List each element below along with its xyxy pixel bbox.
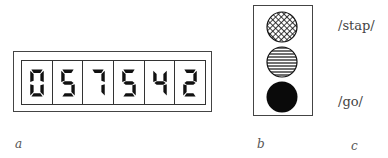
- seven-segment-digit-icon: [28, 68, 46, 98]
- seven-segment-digit-icon: [59, 68, 77, 98]
- caption-b: b: [257, 137, 265, 151]
- seven-segment-digit-icon: [120, 68, 138, 98]
- caption-c: c: [351, 139, 358, 153]
- light-middle-striped-icon: [267, 47, 297, 77]
- label-go: /go/: [338, 94, 363, 109]
- light-bottom-solid-icon: [267, 82, 298, 113]
- seven-segment-digit-icon: [181, 68, 199, 98]
- light-top-crosshatch-icon: [267, 12, 297, 42]
- digit-cell: [114, 61, 145, 104]
- caption-a: a: [15, 137, 22, 151]
- traffic-light: [253, 5, 313, 116]
- digit-cell: [145, 61, 176, 104]
- digit-cell: [22, 61, 53, 104]
- digit-cell: [53, 61, 84, 104]
- digital-display: [21, 60, 206, 105]
- seven-segment-digit-icon: [151, 68, 169, 98]
- seven-segment-digit-icon: [89, 68, 107, 98]
- digit-cell: [175, 61, 205, 104]
- label-stop: /stap/: [338, 18, 375, 33]
- digit-cell: [83, 61, 114, 104]
